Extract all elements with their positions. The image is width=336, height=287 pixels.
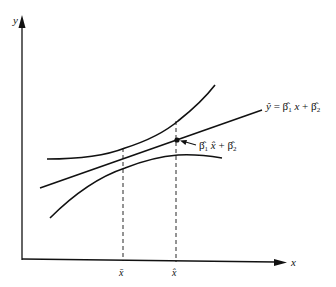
x-axis-arrow-icon: [274, 259, 287, 266]
upper-confidence-curve: [47, 85, 215, 159]
point-pointer-arrow-icon: [180, 140, 187, 145]
lower-confidence-curve: [50, 155, 222, 218]
xbar-tick-label: x̄: [118, 267, 124, 278]
fitted-line-label: ŷ = β̂1 x + β̂2: [265, 100, 321, 114]
y-axis-label: y: [12, 14, 18, 26]
xhat-tick-label: x̂: [171, 267, 177, 278]
x-axis: [22, 259, 276, 262]
regression-diagram: y x x̄ x̂ β̂1 x̂ + β̂2 ŷ = β̂1 x + β̂2: [0, 0, 336, 287]
point-label: β̂1 x̂ + β̂2: [199, 139, 237, 153]
prediction-point: [174, 137, 179, 142]
x-axis-label: x: [290, 256, 296, 268]
y-axis-arrow-icon: [19, 15, 26, 28]
axes: y x: [12, 14, 296, 268]
